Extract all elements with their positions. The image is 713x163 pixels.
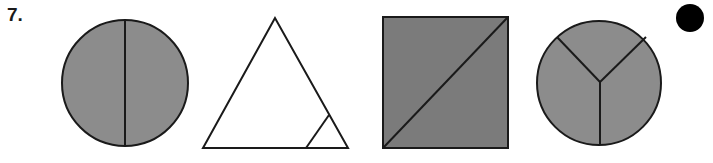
triangle-outline bbox=[203, 18, 348, 148]
shape-square-diagonal bbox=[383, 17, 508, 148]
shape-triangle-corner bbox=[203, 18, 348, 148]
marker-dot-icon bbox=[676, 4, 704, 32]
fraction-shapes-figure bbox=[0, 0, 713, 163]
shape-circle-halves bbox=[62, 20, 188, 146]
shape-circle-thirds bbox=[537, 21, 661, 145]
